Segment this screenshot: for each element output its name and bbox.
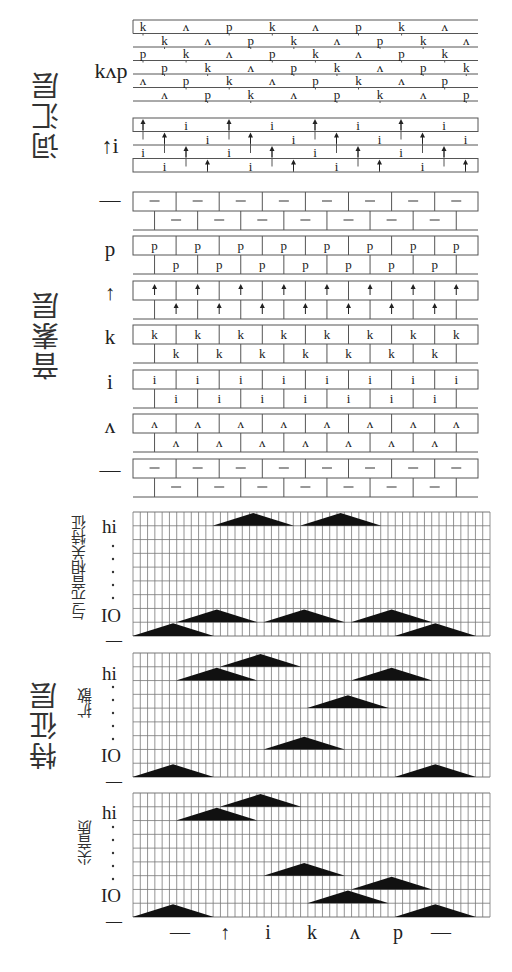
lexical-node: i	[378, 132, 382, 147]
phoneme-node	[195, 284, 200, 295]
phoneme-node: ʌ	[302, 435, 309, 450]
activation-triangle	[176, 668, 258, 681]
phoneme-node: p	[324, 238, 331, 253]
phoneme-node: i	[153, 372, 157, 387]
lexical-label-ti: ↑i	[90, 133, 130, 159]
feature-grid-2	[112, 793, 490, 917]
lexical-node: ʌ	[140, 73, 147, 88]
phoneme-node: i	[411, 372, 415, 387]
phoneme-node	[432, 303, 437, 314]
lexical-node: p	[248, 33, 255, 48]
lexical-node: ʌ	[183, 19, 190, 34]
lexical-node: ʌ	[355, 46, 362, 61]
phoneme-node: p	[367, 238, 374, 253]
phoneme-node: p	[302, 257, 309, 272]
phoneme-node: i	[304, 391, 308, 406]
lexical-node: p	[204, 87, 211, 102]
phoneme-node	[454, 284, 459, 295]
lexical-node	[270, 146, 275, 157]
phoneme-node: k	[431, 346, 438, 361]
lexical-node: i	[227, 145, 231, 160]
phoneme-node: k	[453, 327, 460, 342]
phoneme-node: p	[388, 257, 395, 272]
phoneme-node: k	[194, 327, 201, 342]
phoneme-node: p	[216, 257, 223, 272]
phoneme-node: k	[238, 327, 245, 342]
feature-panel-label-vocalic: 与元音相关特征	[68, 515, 89, 620]
phoneme-node: p	[345, 257, 352, 272]
lexical-node: p	[312, 73, 319, 88]
lexical-node: i	[141, 145, 145, 160]
activation-triangle	[395, 764, 477, 777]
phoneme-node: ʌ	[453, 416, 460, 431]
lexical-node	[205, 160, 210, 171]
input-token-wedge: ʌ	[345, 921, 365, 944]
lexical-node	[420, 133, 425, 144]
phoneme-node: i	[433, 391, 437, 406]
ellipsis-dot	[112, 826, 114, 828]
activation-triangle	[132, 764, 214, 777]
phoneme-node: ʌ	[388, 435, 395, 450]
lexical-node: k	[226, 73, 233, 88]
phoneme-label-silence-top: —	[90, 188, 130, 213]
lexical-node: ʌ	[248, 60, 255, 75]
layer-label-phoneme: 音素层	[28, 290, 68, 380]
lexical-node: k	[355, 73, 362, 88]
feature-panel-diffuse-io: IO	[101, 745, 121, 767]
lexical-node: p	[226, 19, 233, 34]
lexical-node: ʌ	[377, 60, 384, 75]
phoneme-node: i	[239, 372, 243, 387]
lexical-node	[356, 146, 361, 157]
lexical-node: p	[183, 73, 190, 88]
ellipsis-dot	[112, 558, 114, 560]
lexical-node: ʌ	[463, 33, 470, 48]
phoneme-node: p	[238, 238, 245, 253]
lexical-node: k	[377, 87, 384, 102]
phoneme-node: p	[281, 238, 288, 253]
lexical-node: i	[421, 159, 425, 174]
ellipsis-dot	[112, 852, 114, 854]
phoneme-unit-6	[133, 459, 478, 497]
phoneme-node: ʌ	[194, 416, 201, 431]
phoneme-node: k	[302, 346, 309, 361]
lexical-node	[463, 160, 468, 171]
activation-triangle	[176, 808, 258, 821]
lexical-node: i	[464, 132, 468, 147]
lexical-node: i	[292, 132, 296, 147]
lexical-node: i	[313, 145, 317, 160]
feature-panel-label-acute: 尖音质	[74, 820, 95, 865]
phoneme-label-k: k	[90, 325, 130, 350]
phoneme-node: p	[173, 257, 180, 272]
lexical-node: k	[398, 19, 405, 34]
phoneme-node	[411, 284, 416, 295]
phoneme-node: p	[259, 257, 266, 272]
input-token-silence-end: —	[431, 921, 451, 944]
ellipsis-dot	[112, 738, 114, 740]
lexical-node: p	[161, 60, 168, 75]
lexical-node: ʌ	[204, 33, 211, 48]
phoneme-node	[174, 303, 179, 314]
phoneme-label-i: i	[90, 370, 130, 395]
phoneme-node: ʌ	[216, 435, 223, 450]
ellipsis-dot	[112, 584, 114, 586]
phoneme-node: i	[390, 391, 394, 406]
phoneme-node	[238, 284, 243, 295]
activation-triangle	[395, 623, 477, 636]
lexical-node: p	[398, 46, 405, 61]
lexical-node: k	[334, 60, 341, 75]
lexical-node: k	[161, 33, 168, 48]
phoneme-node: p	[410, 238, 417, 253]
phoneme-node: i	[347, 391, 351, 406]
lexical-node: i	[184, 118, 188, 133]
activation-triangle	[212, 513, 294, 526]
phoneme-node: k	[259, 346, 266, 361]
phoneme-node: ʌ	[173, 435, 180, 450]
input-token-k: k	[302, 921, 322, 944]
activation-triangle	[307, 695, 389, 708]
ellipsis-dot	[112, 839, 114, 841]
lexical-node: p	[441, 73, 448, 88]
activation-triangle	[132, 623, 214, 636]
phoneme-node: p	[194, 238, 201, 253]
phoneme-label-p: p	[90, 237, 130, 262]
phoneme-node	[152, 284, 157, 295]
